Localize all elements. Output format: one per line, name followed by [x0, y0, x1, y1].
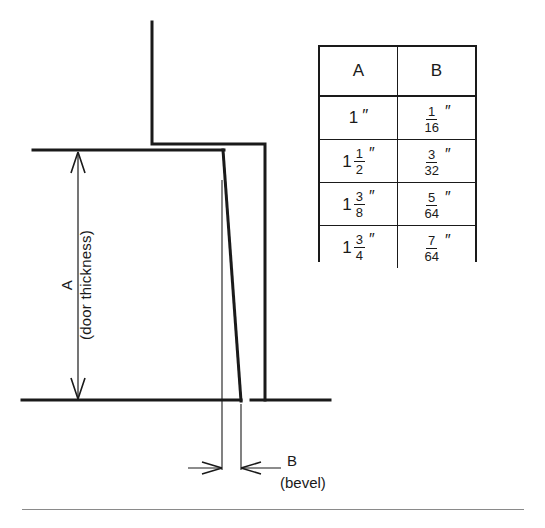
cell-b-3: 764″	[398, 226, 476, 269]
cell-b-2: 564″	[398, 183, 476, 226]
b-0-inch-mark: ″	[442, 104, 451, 120]
a-2-fraction: 38	[354, 190, 365, 219]
b-1-value: 332″	[422, 148, 450, 177]
b-0-denominator: 16	[422, 120, 440, 134]
dimension-a-sublabel: (door thickness)	[77, 230, 96, 340]
table-row: 1″116″	[320, 96, 475, 140]
a-3-whole: 1	[342, 239, 352, 256]
dimension-b-letter: B	[287, 452, 297, 469]
cell-a-1: 112″	[320, 140, 398, 183]
a-1-whole: 1	[342, 153, 352, 170]
table-row: 112″332″	[320, 140, 475, 183]
a-3-inch-mark: ″	[366, 232, 375, 248]
a-0-whole: 1	[349, 109, 359, 126]
b-3-inch-mark: ″	[442, 233, 451, 249]
table-header-b: B	[398, 47, 476, 96]
a-0-inch-mark: ″	[360, 107, 368, 124]
cell-b-1: 332″	[398, 140, 476, 183]
a-1-denominator: 2	[354, 162, 365, 176]
b-3-denominator: 64	[422, 249, 440, 263]
b-0-value: 116″	[422, 105, 450, 134]
a-0-value: 1″	[349, 109, 369, 126]
cell-a-0: 1″	[320, 96, 398, 140]
a-3-fraction: 34	[354, 233, 365, 262]
b-2-inch-mark: ″	[442, 190, 451, 206]
a-2-inch-mark: ″	[366, 189, 375, 205]
b-0-numerator: 1	[426, 105, 437, 120]
a-3-value: 134″	[342, 233, 374, 262]
b-1-inch-mark: ″	[442, 147, 451, 163]
cell-a-2: 138″	[320, 183, 398, 226]
b-2-denominator: 64	[422, 206, 440, 220]
table-row: 134″764″	[320, 226, 475, 269]
a-1-inch-mark: ″	[366, 146, 375, 162]
b-1-denominator: 32	[422, 163, 440, 177]
b-2-fraction: 564	[422, 191, 440, 220]
footer-divider-rule	[22, 509, 524, 510]
dimension-a-label: A (door thickness)	[58, 230, 96, 340]
b-1-fraction: 332	[422, 148, 440, 177]
b-2-numerator: 5	[426, 191, 437, 206]
a-2-whole: 1	[342, 196, 352, 213]
b-1-numerator: 3	[426, 148, 437, 163]
b-3-numerator: 7	[426, 234, 437, 249]
a-2-denominator: 8	[354, 205, 365, 219]
table-row: 138″564″	[320, 183, 475, 226]
a-2-value: 138″	[342, 190, 374, 219]
a-1-value: 112″	[342, 147, 374, 176]
table-header-a: A	[320, 47, 398, 96]
cell-b-0: 116″	[398, 96, 476, 140]
table-header-row: A B	[320, 47, 475, 96]
jamb-profile-line	[152, 22, 265, 400]
a-3-denominator: 4	[354, 248, 365, 262]
a-1-numerator: 1	[354, 147, 365, 162]
door-bevel-edge-line	[223, 150, 241, 401]
table-body: 1″116″112″332″138″564″134″764″	[320, 96, 475, 268]
dimension-a-letter: A	[58, 230, 77, 340]
a-3-numerator: 3	[354, 233, 365, 248]
b-3-value: 764″	[422, 234, 450, 263]
b-2-value: 564″	[422, 191, 450, 220]
dimension-b-sublabel: (bevel)	[280, 474, 326, 491]
b-3-fraction: 764	[422, 234, 440, 263]
a-2-numerator: 3	[354, 190, 365, 205]
b-0-fraction: 116	[422, 105, 440, 134]
figure-root: A (door thickness) B (bevel) A B 1″116″1…	[0, 0, 545, 528]
cell-a-3: 134″	[320, 226, 398, 269]
a-1-fraction: 12	[354, 147, 365, 176]
bevel-spec-table: A B 1″116″112″332″138″564″134″764″	[318, 45, 477, 262]
